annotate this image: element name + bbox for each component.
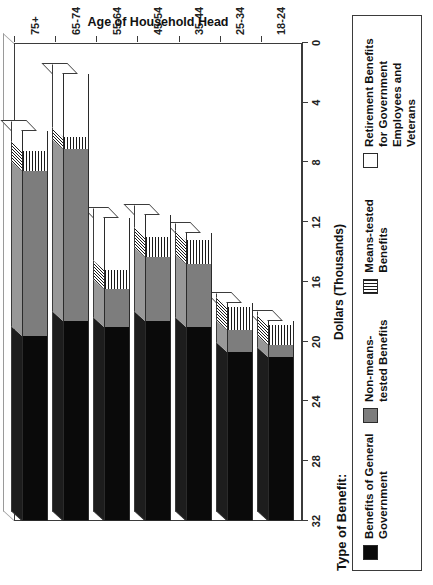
bar-top-face xyxy=(216,293,227,521)
bar-end-cap xyxy=(104,207,130,218)
value-axis-tick xyxy=(302,520,308,521)
bar-top-face xyxy=(134,205,145,521)
bar-end-cap xyxy=(63,63,89,74)
value-axis-tick xyxy=(302,42,308,43)
bar-segment[interactable] xyxy=(63,149,89,321)
bar-row[interactable] xyxy=(104,207,130,521)
bar-segment-top xyxy=(52,139,63,321)
bar-segment[interactable] xyxy=(227,352,253,521)
legend-item[interactable]: Non-means-tested Benefits xyxy=(362,304,390,423)
bar-segment[interactable] xyxy=(227,307,253,329)
bar-segment-top xyxy=(93,317,104,521)
bar-segment-top xyxy=(11,162,22,336)
bar-segment[interactable] xyxy=(145,257,171,321)
value-axis-tick xyxy=(302,281,308,282)
bar-segment[interactable] xyxy=(268,325,294,344)
bar-segment-top xyxy=(93,208,104,270)
bar-segment[interactable] xyxy=(104,327,130,521)
category-axis-tick xyxy=(179,36,180,42)
legend-items: Benefits of General GovernmentNon-means-… xyxy=(353,16,421,570)
value-axis-tick-label: 0 xyxy=(310,40,322,46)
bar-end-cap xyxy=(22,120,48,131)
bar-segment[interactable] xyxy=(104,218,130,270)
value-axis-tick-label: 32 xyxy=(310,515,322,527)
bar-segment-top xyxy=(134,311,145,521)
bar-row[interactable] xyxy=(63,63,89,521)
bar-segment[interactable] xyxy=(63,74,89,137)
category-axis-tick xyxy=(261,36,262,42)
bar-top-face xyxy=(52,64,63,521)
bar-segment-top xyxy=(52,64,63,137)
rotated-chart-stage: 322824201612840 Dollars (Thousands) 18-2… xyxy=(0,0,433,585)
bar-row[interactable] xyxy=(22,120,48,521)
value-axis-tick xyxy=(302,221,308,222)
gray-swatch xyxy=(363,408,378,423)
value-axis-tick-label: 28 xyxy=(310,455,322,467)
category-axis-title: Age of Household Head xyxy=(14,15,302,29)
bar-segment[interactable] xyxy=(227,303,253,307)
value-axis-tick-label: 8 xyxy=(310,159,322,165)
bar-segment[interactable] xyxy=(63,137,89,149)
value-axis-tick xyxy=(302,162,308,163)
bar-segment[interactable] xyxy=(227,330,253,352)
chart-figure: 322824201612840 Dollars (Thousands) 18-2… xyxy=(0,0,433,585)
black-swatch xyxy=(363,545,378,560)
bar-segment-top xyxy=(175,254,186,327)
bar-segment[interactable] xyxy=(186,327,212,521)
legend-item[interactable]: Means-tested Benefits xyxy=(362,178,390,294)
bar-end-cap xyxy=(186,222,212,233)
bar-segment[interactable] xyxy=(268,345,294,357)
bar-segment-top xyxy=(52,311,63,521)
bar-segment[interactable] xyxy=(186,240,212,264)
value-axis-tick-label: 16 xyxy=(310,276,322,288)
legend-item-label: Benefits of General Government xyxy=(362,433,390,539)
hatched-swatch xyxy=(363,279,378,294)
bar-segment[interactable] xyxy=(145,321,171,521)
legend-item-label: Retirement Benefits for Government Emplo… xyxy=(362,26,418,147)
bar-segment[interactable] xyxy=(22,336,48,521)
legend-item[interactable]: Retirement Benefits for Government Emplo… xyxy=(362,26,418,168)
bar-segment[interactable] xyxy=(22,131,48,150)
bar-end-cap xyxy=(268,310,294,321)
legend-item[interactable]: Benefits of General Government xyxy=(362,433,390,560)
bar-segment[interactable] xyxy=(186,264,212,327)
white-swatch xyxy=(363,153,378,168)
value-axis-tick-label: 20 xyxy=(310,336,322,348)
category-axis-tick xyxy=(220,36,221,42)
bar-end-cap xyxy=(227,292,253,303)
value-axis-tick-label: 24 xyxy=(310,395,322,407)
bar-segment-top xyxy=(11,326,22,521)
bar-segment[interactable] xyxy=(268,321,294,325)
legend-item-label: Non-means-tested Benefits xyxy=(362,304,390,402)
bar-segment-top xyxy=(134,247,145,321)
legend-box: Benefits of General GovernmentNon-means-… xyxy=(352,15,422,571)
bar-segment[interactable] xyxy=(104,270,130,289)
category-axis-tick xyxy=(96,36,97,42)
bar-top-face xyxy=(257,311,268,521)
bar-row[interactable] xyxy=(186,222,212,521)
bar-segment[interactable] xyxy=(63,321,89,521)
bar-segment[interactable] xyxy=(268,357,294,521)
category-axis-title-label: Age of Household Head xyxy=(88,15,229,29)
category-axis-tick xyxy=(14,36,15,42)
bar-top-face xyxy=(93,208,104,521)
bar-segment[interactable] xyxy=(104,289,130,326)
bar-segment[interactable] xyxy=(145,237,171,256)
bar-segment[interactable] xyxy=(22,171,48,335)
plot-area xyxy=(14,43,302,521)
value-axis-tick xyxy=(302,102,308,103)
bar-row[interactable] xyxy=(145,204,171,521)
value-axis-tick xyxy=(302,460,308,461)
bar-segment-top xyxy=(216,342,227,521)
bar-segment[interactable] xyxy=(22,151,48,172)
bar-row[interactable] xyxy=(268,310,294,521)
category-axis-tick xyxy=(137,36,138,42)
legend-item-label: Means-tested Benefits xyxy=(362,178,390,273)
bar-top-face xyxy=(11,121,22,521)
bar-top-face xyxy=(175,223,186,521)
value-axis-tick xyxy=(302,341,308,342)
category-axis-tick xyxy=(55,36,56,42)
bar-segment[interactable] xyxy=(145,215,171,237)
bar-segment[interactable] xyxy=(186,233,212,240)
bar-row[interactable] xyxy=(227,292,253,521)
